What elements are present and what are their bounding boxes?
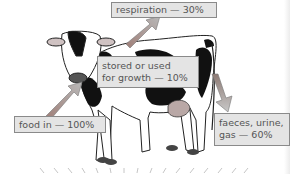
label-faeces-urine-gas: faeces, urine, gas — 60% — [214, 113, 290, 146]
label-food-in: food in — 100% — [14, 116, 106, 133]
arrow-food-in — [46, 82, 82, 120]
energy-flow-diagram: respiration — 30% stored or used for gro… — [0, 0, 290, 174]
arrow-waste — [212, 74, 232, 112]
label-respiration-text: respiration — 30% — [116, 4, 204, 15]
label-stored-growth: stored or used for growth — 10% — [97, 56, 199, 88]
ground-hatching — [40, 168, 248, 173]
label-waste-line1: faeces, urine, — [219, 117, 285, 129]
label-stored-line1: stored or used — [102, 60, 194, 72]
label-respiration: respiration — 30% — [111, 2, 217, 18]
page-edge-shadow — [284, 0, 290, 174]
label-stored-line2: for growth — 10% — [102, 72, 194, 84]
label-waste-line2: gas — 60% — [219, 129, 285, 141]
label-food-in-text: food in — 100% — [19, 119, 94, 130]
